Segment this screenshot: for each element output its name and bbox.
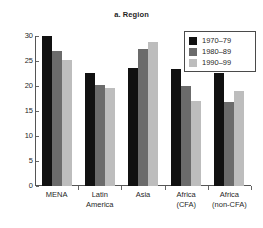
legend-item: 1970–79 (189, 35, 251, 46)
bar-group (85, 36, 115, 186)
y-tick-label: 5 (29, 157, 33, 165)
bar (62, 60, 72, 187)
bar (214, 73, 224, 186)
bar (191, 101, 201, 186)
legend: 1970–791980–891990–99 (184, 31, 256, 72)
x-axis-label-line: Africa (208, 190, 251, 200)
bar-group (42, 36, 72, 186)
legend-item: 1990–99 (189, 57, 251, 68)
x-axis-label: LatinAmerica (78, 190, 121, 210)
y-tick-label: 0 (29, 182, 33, 190)
bar (42, 36, 52, 186)
y-tick: 20 (36, 86, 39, 87)
y-tick: 10 (36, 136, 39, 137)
bar (234, 91, 244, 186)
legend-label: 1970–79 (202, 37, 231, 45)
y-tick-label: 30 (25, 32, 33, 40)
y-tick: 15 (36, 111, 39, 112)
x-axis-label: Africa(CFA) (165, 190, 208, 210)
legend-swatch-icon (189, 37, 197, 45)
y-tick: 25 (36, 61, 39, 62)
x-axis-label-line: (CFA) (165, 200, 208, 210)
legend-label: 1990–99 (202, 59, 231, 67)
y-tick: 0 (36, 186, 39, 187)
x-axis-label: Africa(non-CFA) (208, 190, 251, 210)
bar (52, 51, 62, 186)
y-tick-label: 25 (25, 57, 33, 65)
bar (85, 73, 95, 186)
y-tick-label: 20 (25, 82, 33, 90)
bar (95, 85, 105, 186)
legend-swatch-icon (189, 48, 197, 56)
bar (128, 68, 138, 187)
bar-group (128, 36, 158, 186)
x-separator-tick (251, 186, 252, 190)
x-axis-label-line: Latin (78, 190, 121, 200)
x-axis-label-line: Asia (121, 190, 164, 200)
x-axis-label-line: (non-CFA) (208, 200, 251, 210)
bar-chart: a. Region 051015202530 MENALatinAmericaA… (0, 0, 263, 228)
y-tick: 5 (36, 161, 39, 162)
x-axis-label-line: Africa (165, 190, 208, 200)
x-axis-label-line: America (78, 200, 121, 210)
bar (148, 42, 158, 186)
y-tick-label: 10 (25, 132, 33, 140)
x-axis-label-line: MENA (35, 190, 78, 200)
bar (171, 69, 181, 187)
chart-title: a. Region (0, 10, 263, 19)
bar (138, 49, 148, 187)
y-tick: 30 (36, 36, 39, 37)
legend-label: 1980–89 (202, 48, 231, 56)
y-tick-label: 15 (25, 107, 33, 115)
legend-item: 1980–89 (189, 46, 251, 57)
x-axis-label: MENA (35, 190, 78, 200)
x-axis-label: Asia (121, 190, 164, 200)
bar (105, 88, 115, 187)
bar (224, 102, 234, 187)
bar (181, 86, 191, 187)
legend-swatch-icon (189, 59, 197, 67)
